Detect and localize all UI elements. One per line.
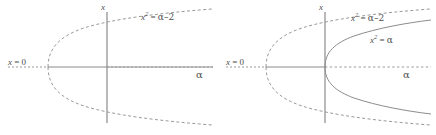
zero-label-rhs: 0: [22, 57, 27, 67]
curve-lower-dashed: [48, 67, 212, 125]
curve-label-alpha-minus-2: x2 = α–2: [351, 14, 384, 23]
panel-left: x α x2 = α–2 x = 0: [0, 0, 218, 135]
curve-label-equals: =: [358, 13, 368, 23]
zero-label-equals: =: [230, 57, 240, 67]
curve-label-equals: =: [148, 12, 158, 22]
curve-lower-solid: [325, 67, 431, 114]
y-axis-label: x: [319, 3, 323, 12]
zero-label-equals: =: [12, 57, 22, 67]
x-equals-zero-label: x = 0: [8, 58, 26, 67]
curve-label-rhs: α: [387, 35, 393, 45]
curve-label-rhs: α–2: [368, 13, 384, 23]
curve-label-alpha-minus-2: x2 = α–2: [141, 13, 174, 22]
x-axis-label: α: [403, 70, 410, 80]
zero-label-rhs: 0: [240, 57, 245, 67]
curve-label-alpha: x2 = α: [370, 36, 393, 45]
curve-label-rhs: α–2: [158, 12, 174, 22]
x-equals-zero-label: x = 0: [226, 58, 244, 67]
x-axis-label: α: [196, 70, 203, 80]
panel-right: x α x2 = α–2 x2 = α x = 0: [218, 0, 436, 135]
curve-label-equals: =: [377, 35, 387, 45]
panel-left-plot: [0, 0, 218, 135]
panel-right-plot: [218, 0, 436, 135]
bifurcation-figure: x α x2 = α–2 x = 0 x: [0, 0, 436, 135]
y-axis-label: x: [101, 3, 105, 12]
curve-upper-dashed: [48, 9, 212, 67]
